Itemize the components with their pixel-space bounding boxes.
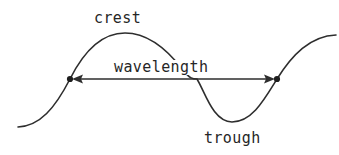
wave-canvas bbox=[0, 0, 339, 155]
trough-label: trough bbox=[204, 129, 261, 147]
left-crossing-dot bbox=[67, 76, 73, 82]
wave-curve bbox=[18, 33, 336, 127]
wave-diagram: crest wavelength trough bbox=[0, 0, 339, 155]
right-crossing-dot bbox=[274, 76, 280, 82]
crest-label: crest bbox=[94, 9, 141, 27]
wavelength-label: wavelength bbox=[114, 58, 208, 76]
